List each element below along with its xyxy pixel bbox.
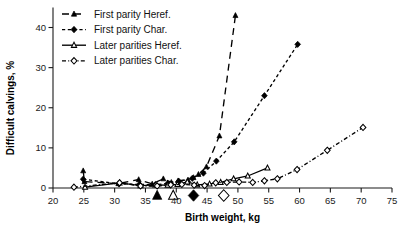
x-tick-label: 20 bbox=[48, 195, 59, 206]
data-point bbox=[231, 176, 236, 181]
x-tick-label: 25 bbox=[79, 195, 90, 206]
data-point bbox=[71, 184, 77, 190]
legend-item-4[interactable]: Later parities Char. bbox=[62, 55, 179, 66]
mean-marker bbox=[153, 190, 162, 199]
x-tick-label: 40 bbox=[171, 195, 182, 206]
data-point bbox=[136, 177, 141, 182]
y-tick-label: 30 bbox=[35, 62, 46, 73]
data-point bbox=[236, 179, 242, 185]
data-point bbox=[233, 13, 238, 18]
data-point bbox=[213, 158, 219, 164]
legend-item-3[interactable]: Later parities Heref. bbox=[62, 40, 182, 51]
data-point bbox=[83, 184, 88, 189]
data-point bbox=[250, 179, 256, 185]
data-point bbox=[262, 93, 268, 99]
y-tick-label: 10 bbox=[35, 142, 46, 153]
legend-marker bbox=[71, 58, 77, 65]
x-tick-label: 35 bbox=[140, 195, 151, 206]
data-point bbox=[245, 173, 250, 178]
legend-layer: First parity Heref.First parity Char.Lat… bbox=[62, 9, 182, 67]
labels-layer: 202530354045505560657075010203040Birth w… bbox=[5, 22, 397, 223]
data-point bbox=[324, 147, 330, 153]
data-point bbox=[360, 124, 366, 130]
y-tick-label: 0 bbox=[41, 182, 46, 193]
x-tick-label: 45 bbox=[202, 195, 213, 206]
mean-marker bbox=[188, 190, 199, 201]
data-point bbox=[275, 176, 281, 182]
legend-item-1[interactable]: First parity Heref. bbox=[62, 9, 171, 20]
y-axis-title: Difficult calvings, % bbox=[5, 61, 16, 156]
chart-figure: 202530354045505560657075010203040Birth w… bbox=[0, 0, 405, 237]
data-point bbox=[161, 176, 166, 181]
legend-label-text: First parity Char. bbox=[94, 24, 167, 35]
chart-canvas: 202530354045505560657075010203040Birth w… bbox=[0, 0, 405, 237]
x-tick-label: 65 bbox=[325, 195, 336, 206]
series-3 bbox=[83, 165, 270, 189]
x-tick-label: 60 bbox=[294, 195, 305, 206]
legend-marker bbox=[71, 26, 77, 33]
legend-item-2[interactable]: First parity Char. bbox=[62, 24, 167, 35]
y-tick-label: 20 bbox=[35, 102, 46, 113]
data-point bbox=[217, 133, 222, 138]
mean-marker bbox=[218, 190, 229, 201]
legend-label-text: First parity Heref. bbox=[94, 9, 171, 20]
data-point bbox=[265, 165, 270, 170]
x-tick-label: 70 bbox=[356, 195, 367, 206]
data-point bbox=[262, 178, 268, 184]
x-tick-label: 75 bbox=[387, 195, 398, 206]
data-point bbox=[81, 168, 86, 173]
y-tick-label: 40 bbox=[35, 22, 46, 33]
legend-label-text: Later parities Heref. bbox=[94, 40, 182, 51]
data-point bbox=[294, 166, 300, 172]
legend-label-text: Later parities Char. bbox=[94, 55, 179, 66]
legend-marker bbox=[71, 42, 76, 47]
x-axis-title: Birth weight, kg bbox=[185, 212, 260, 223]
x-tick-label: 50 bbox=[233, 195, 244, 206]
mean-markers-layer bbox=[153, 190, 229, 201]
x-tick-label: 55 bbox=[263, 195, 274, 206]
x-tick-label: 30 bbox=[109, 195, 120, 206]
